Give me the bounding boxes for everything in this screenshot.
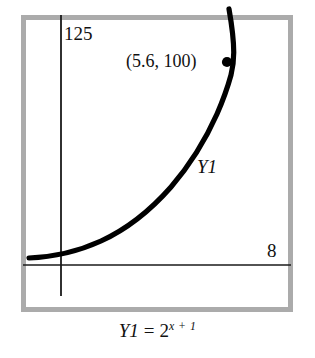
curve-label: Y1 bbox=[197, 157, 217, 176]
y-axis-max-label: 125 bbox=[64, 24, 93, 43]
caption-base: 2 bbox=[159, 320, 169, 341]
point-coordinate-label: (5.6, 100) bbox=[126, 52, 197, 70]
caption-function-name: Y1 bbox=[119, 320, 139, 341]
figure-caption: Y1=2x + 1 bbox=[0, 320, 315, 342]
caption-exponent: x + 1 bbox=[169, 320, 196, 333]
caption-equals-sign: = bbox=[144, 320, 155, 341]
exponential-function-figure: 125 (5.6, 100) Y1 8 Y1=2x + 1 bbox=[0, 0, 315, 358]
exponential-curve bbox=[29, 9, 234, 258]
x-axis-max-label: 8 bbox=[267, 241, 277, 260]
data-point-marker bbox=[222, 57, 232, 67]
